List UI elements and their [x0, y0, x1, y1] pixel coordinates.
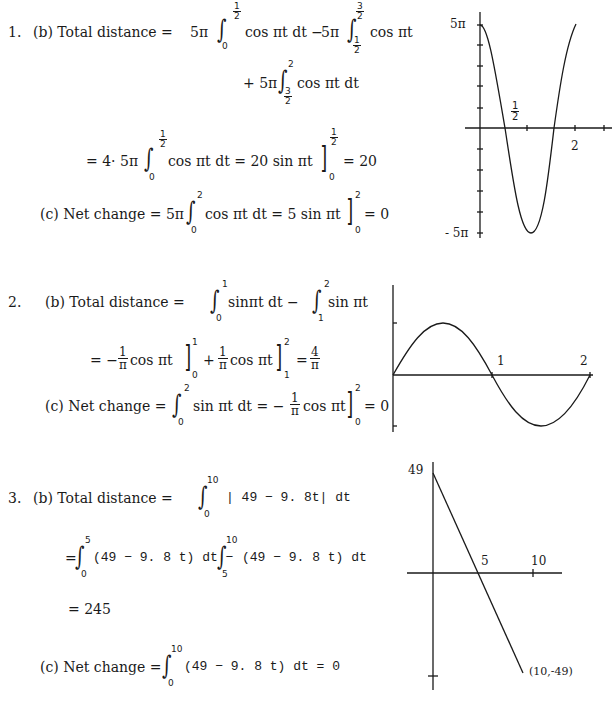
linear-graph	[0, 0, 612, 705]
y-label-top: 49	[408, 464, 423, 476]
x-label-10: 10	[531, 555, 546, 567]
end-point-label: (10,-49)	[529, 666, 573, 678]
x-label-5: 5	[481, 555, 489, 567]
